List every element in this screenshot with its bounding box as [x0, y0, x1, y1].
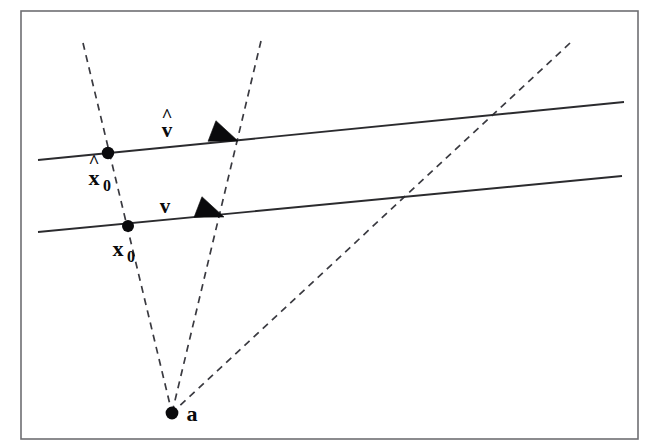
x-hat-zero-base-label: x	[89, 165, 100, 190]
x-hat-zero-subscript: 0	[103, 177, 111, 194]
point-x-zero	[122, 220, 134, 232]
point-apex-a	[166, 407, 179, 420]
v-label: v	[160, 194, 171, 218]
x-zero-subscript: 0	[127, 248, 135, 265]
figure-root: ^ v v ^ x 0 x 0 a	[0, 0, 654, 448]
apex-a-label: a	[187, 401, 198, 426]
v-hat-label: v	[162, 118, 173, 142]
geometric-diagram: ^ v v ^ x 0 x 0 a	[0, 0, 654, 448]
point-x-hat-zero	[102, 147, 114, 159]
x-zero-base-label: x	[113, 236, 124, 261]
